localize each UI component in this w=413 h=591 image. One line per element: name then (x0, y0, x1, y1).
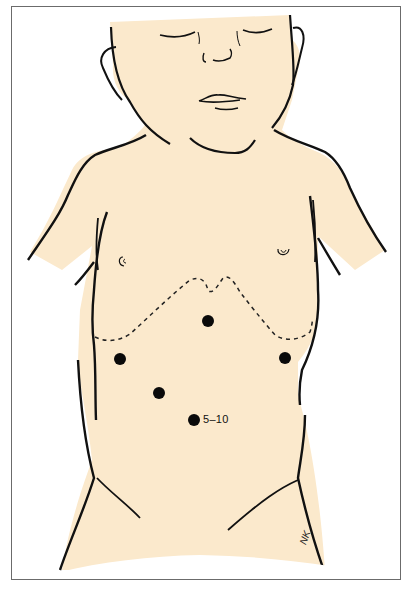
marker-right-flank (279, 352, 291, 364)
marker-left-flank (114, 353, 126, 365)
infant-torso-illustration (0, 0, 413, 591)
body-fill (30, 15, 385, 570)
marker-label: 5–10 (203, 413, 229, 425)
marker-lower-midline (188, 414, 200, 426)
marker-upper-midline (202, 315, 214, 327)
marker-left-lower (153, 387, 165, 399)
